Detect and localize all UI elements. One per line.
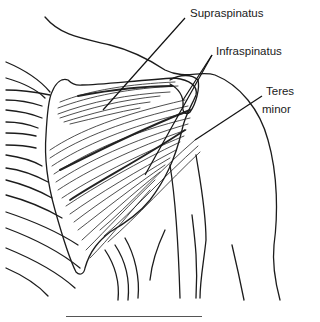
- teres-minor-muscle: [100, 140, 200, 242]
- infraspinatus-leader-a: [145, 55, 212, 175]
- supraspinatus-muscle: [58, 82, 178, 124]
- humerus-outline: [150, 155, 244, 300]
- label-teres-minor-line2: minor: [262, 102, 291, 116]
- scapula-outline: [45, 78, 196, 274]
- acromion: [170, 76, 199, 114]
- label-teres-minor-line1: Teres: [266, 84, 294, 98]
- label-infraspinatus: Infraspinatus: [216, 44, 282, 58]
- teres-minor-leader: [195, 96, 262, 140]
- supraspinatus-leader: [103, 18, 185, 110]
- label-supraspinatus: Supraspinatus: [190, 6, 264, 20]
- caption-rule: [66, 316, 202, 317]
